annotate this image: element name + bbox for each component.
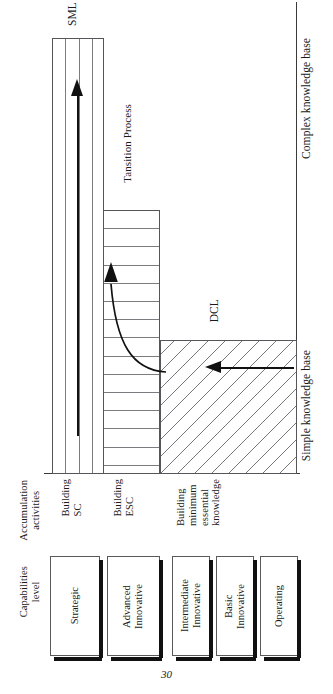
- accumulation-activities-axis-title: Accumulation activities: [18, 480, 42, 541]
- capability-box-operating: Operating: [260, 556, 298, 656]
- capability-label: Strategic: [69, 587, 81, 624]
- bar-building-minimum-essential-knowledge: [160, 340, 297, 474]
- page-number: 30: [0, 668, 333, 680]
- capability-accumulation-chart: SML Tansition Process DCL Complex knowle…: [0, 0, 333, 500]
- capabilities-level-row: Strategic Advanced Innovative Intermedia…: [0, 556, 333, 664]
- capability-box-strategic: Strategic: [50, 556, 100, 656]
- capability-box-basic-innovative: Basic Innovative: [216, 556, 254, 656]
- capability-label: Operating: [273, 585, 285, 627]
- label-sml: SML: [66, 2, 79, 26]
- capability-box-advanced-innovative: Advanced Innovative: [107, 556, 160, 656]
- label-dcl: DCL: [208, 299, 221, 322]
- accumulation-label-building-sc: Building SC: [60, 479, 84, 517]
- dcl-arrow-head-icon: [205, 361, 221, 373]
- capability-label: Intermediate Innovative: [179, 579, 203, 632]
- capability-label: Advanced Innovative: [121, 584, 145, 629]
- accumulation-label-building-esc: Building ESC: [112, 479, 136, 517]
- capability-label: Basic Innovative: [223, 584, 247, 629]
- label-transition-process: Tansition Process: [121, 104, 133, 183]
- figure-page: SML Tansition Process DCL Complex knowle…: [0, 0, 333, 694]
- transition-curved-arrow-icon: [96, 240, 166, 375]
- label-simple-knowledge-base: Simple knowledge base: [300, 350, 313, 461]
- sml-arrow-head-icon: [71, 79, 83, 96]
- dcl-arrow-shaft: [218, 367, 294, 369]
- capability-box-intermediate-innovative: Intermediate Innovative: [172, 556, 210, 656]
- accumulation-label-building-minimum-essential-knowledge: Building minimum essential knowledge: [175, 479, 222, 526]
- sml-arrow-shaft: [77, 93, 79, 436]
- label-complex-knowledge-base: Complex knowledge base: [300, 38, 313, 159]
